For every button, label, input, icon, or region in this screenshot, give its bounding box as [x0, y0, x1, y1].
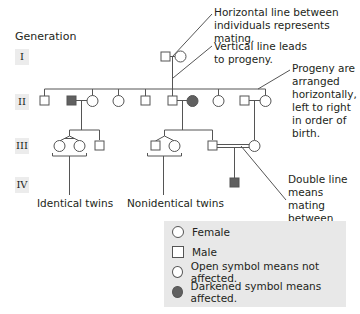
gen2-female-4	[260, 96, 271, 107]
order-callout-leader	[258, 70, 290, 89]
gen4-male-affected	[230, 178, 239, 187]
identical-twins-bracket	[53, 153, 87, 156]
gen3-female-consanguineous	[249, 141, 260, 152]
legend-box: Female Male Open symbol means not affect…	[164, 221, 346, 307]
gen2-male-1	[40, 96, 49, 105]
nonidentical-twins-bracket	[148, 153, 182, 156]
gen2-male-3	[168, 96, 177, 105]
open-symbol-icon	[172, 266, 183, 278]
legend-affected: Darkened symbol means affected.	[172, 284, 346, 300]
legend-unaffected: Open symbol means not affected.	[172, 264, 346, 280]
gen2-male-2	[141, 96, 150, 105]
male-square-icon	[172, 246, 184, 258]
identical-twins-label: Identical twins	[37, 197, 113, 210]
gen3-nonidentical-twin-female	[169, 141, 180, 152]
legend-female: Female	[172, 224, 230, 240]
filled-symbol-icon	[172, 286, 183, 298]
gen2-male-affected	[67, 96, 76, 105]
gen2-female-1	[87, 96, 98, 107]
nonidentical-twins-label: Nonidentical twins	[127, 197, 224, 210]
legend-male: Male	[172, 244, 217, 260]
gen3-male-consanguineous	[208, 141, 217, 150]
gen2-female-3	[213, 96, 224, 107]
female-circle-icon	[172, 226, 184, 238]
gen3-identical-twin-2	[74, 141, 85, 152]
gen2-male-mate	[240, 96, 249, 105]
double-line-callout-leader	[241, 146, 286, 200]
gen2-female-affected	[187, 96, 198, 107]
gen3-male-1	[95, 141, 104, 150]
gen3-identical-twin-1	[54, 141, 65, 152]
order-annotation: Progeny are arranged horizontally, left …	[292, 62, 357, 140]
gen1-male	[161, 52, 170, 61]
gen3-nonidentical-twin-male	[151, 141, 160, 150]
gen2-female-2	[113, 96, 124, 107]
